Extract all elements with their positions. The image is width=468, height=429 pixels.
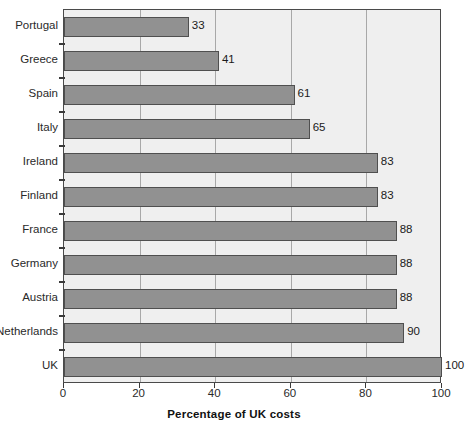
category-label: Spain [29,88,58,100]
x-axis-tick-label: 20 [132,388,145,400]
category-label: Netherlands [0,326,58,338]
y-axis-tick [59,145,65,147]
bar-value-label: 90 [407,326,420,338]
bar [64,289,397,309]
chart-figure: PortugalGreeceSpainItalyIrelandFinlandFr… [0,0,468,429]
bar-value-label: 83 [381,190,394,202]
bar [64,221,397,241]
bar [64,119,310,139]
bar-value-label: 61 [298,88,311,100]
category-label: France [22,224,58,236]
bar-value-label: 65 [313,122,326,134]
y-axis-tick [59,77,65,79]
bar [64,323,404,343]
category-label: Portugal [15,20,58,32]
y-axis-tick [59,43,65,45]
category-label: Germany [11,258,58,270]
y-axis-tick [59,111,65,113]
bar [64,255,397,275]
x-axis-tick-label: 40 [208,388,221,400]
y-axis-tick [59,349,65,351]
bar-value-label: 100 [445,360,464,372]
category-axis-labels: PortugalGreeceSpainItalyIrelandFinlandFr… [0,0,58,429]
bar-value-label: 33 [192,20,205,32]
bar [64,357,442,377]
y-axis-tick [59,213,65,215]
category-label: Italy [37,122,58,134]
bar-value-label: 41 [222,54,235,66]
bar [64,85,295,105]
bar [64,153,378,173]
y-axis-tick [59,315,65,317]
bar [64,187,378,207]
y-axis-tick [59,281,65,283]
bar-value-label: 88 [400,292,413,304]
category-label: Finland [20,190,58,202]
category-label: UK [42,360,58,372]
bar-value-label: 83 [381,156,394,168]
bar [64,51,219,71]
x-axis-tick-label: 0 [60,388,66,400]
x-axis-tick-label: 100 [431,388,450,400]
x-axis-tick-label: 80 [359,388,372,400]
category-label: Greece [20,54,58,66]
bar [64,17,189,37]
y-axis-tick [59,179,65,181]
category-label: Ireland [23,156,58,168]
bar-value-label: 88 [400,224,413,236]
category-label: Austria [22,292,58,304]
x-axis-tick-label: 60 [283,388,296,400]
y-axis-tick [59,247,65,249]
bar-value-label: 88 [400,258,413,270]
x-axis-title: Percentage of UK costs [0,408,468,420]
